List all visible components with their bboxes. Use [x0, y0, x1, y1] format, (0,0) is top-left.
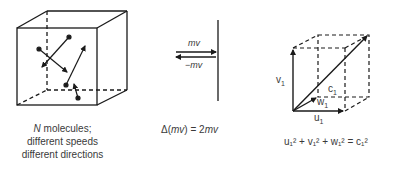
- label-v1: v1: [276, 74, 285, 87]
- left-caption: N molecules; different speeds different …: [0, 122, 125, 161]
- momentum-out-label: −mv: [185, 60, 202, 70]
- momentum-change-equation: Δ(mv) = 2mv: [161, 124, 218, 135]
- pythagorean-equation: u₁² + v₁² + w₁² = c₁²: [284, 136, 368, 147]
- caption-line-3: different directions: [0, 148, 125, 161]
- velocity-vectors: [293, 36, 367, 111]
- label-w1: w1: [317, 96, 328, 109]
- label-c1: c1: [328, 83, 337, 96]
- molecule-box: [17, 11, 127, 105]
- label-u1: u1: [314, 112, 323, 125]
- caption-line-1: N molecules;: [0, 122, 125, 135]
- momentum-in-label: mv: [188, 38, 200, 48]
- vector-c1: [293, 36, 367, 111]
- caption-line-2: different speeds: [0, 135, 125, 148]
